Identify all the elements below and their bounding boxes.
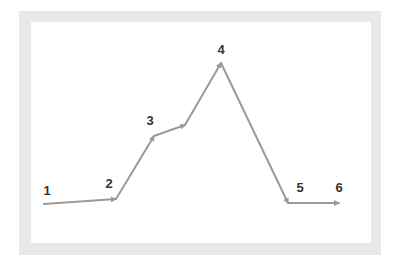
arrow-segment xyxy=(185,63,221,125)
point-label-6: 6 xyxy=(335,181,342,194)
arrow-segment xyxy=(154,125,185,136)
arrow-segment xyxy=(221,63,288,203)
path-segments xyxy=(44,63,339,204)
point-label-3: 3 xyxy=(146,114,153,127)
arrow-segment xyxy=(44,199,116,204)
path-diagram xyxy=(0,0,404,268)
point-label-2: 2 xyxy=(105,177,112,190)
point-label-5: 5 xyxy=(296,181,303,194)
point-label-4: 4 xyxy=(217,43,224,56)
point-label-1: 1 xyxy=(43,184,50,197)
arrow-segment xyxy=(116,136,154,199)
